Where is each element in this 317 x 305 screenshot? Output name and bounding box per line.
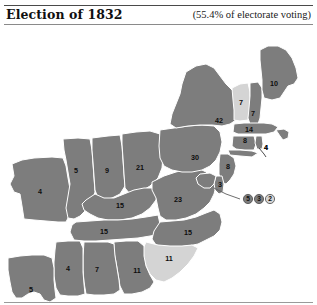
state-LA[interactable] <box>8 255 56 302</box>
state-value-MS: 4 <box>66 264 70 273</box>
map-canvas: 10771448423083219541523151511117454 532 <box>0 26 317 305</box>
callout-value-2: 2 <box>268 195 272 202</box>
footer-rule <box>4 302 313 303</box>
state-RI[interactable] <box>255 136 263 149</box>
state-value-ME: 10 <box>270 79 278 88</box>
header-rule-bottom <box>4 24 313 25</box>
state-value-VA: 23 <box>174 195 182 204</box>
state-MA-cape <box>276 129 289 140</box>
state-value-SC: 11 <box>165 254 173 263</box>
state-value-PA: 30 <box>191 153 199 162</box>
us-election-map-svg: 10771448423083219541523151511117454 532 <box>0 26 317 305</box>
state-value-IN: 9 <box>105 166 109 175</box>
state-value-VT: 7 <box>239 98 243 107</box>
long-island <box>228 150 258 157</box>
state-value-MO: 4 <box>38 187 42 196</box>
state-value-IL: 5 <box>74 166 78 175</box>
callout-circles-group: 532 <box>243 194 274 203</box>
state-ME[interactable] <box>260 46 298 100</box>
election-map-figure: Election of 1832 (55.4% of electorate vo… <box>0 0 317 305</box>
state-NY[interactable] <box>170 64 242 128</box>
state-PA[interactable] <box>159 125 222 172</box>
page-title: Election of 1832 <box>6 7 123 22</box>
state-value-CT: 8 <box>243 136 247 145</box>
callout-value-0: 5 <box>246 195 250 202</box>
state-value-TN: 15 <box>100 227 108 236</box>
state-value-OH: 21 <box>136 163 144 172</box>
state-value-NC: 15 <box>184 228 192 237</box>
state-shapes-group <box>8 46 298 302</box>
state-value-NH: 7 <box>251 109 255 118</box>
state-MA[interactable] <box>233 123 278 134</box>
callout-value-1: 3 <box>257 195 261 202</box>
state-AL[interactable] <box>83 242 120 295</box>
state-value-KY: 15 <box>116 201 124 210</box>
leader-value-RI: 4 <box>264 143 268 152</box>
state-value-NJ: 8 <box>226 162 230 171</box>
state-value-DE: 3 <box>218 180 222 189</box>
state-value-NY: 42 <box>215 116 223 125</box>
state-value-LA: 5 <box>29 285 33 294</box>
state-value-AL: 7 <box>95 265 99 274</box>
header-rule-top <box>4 5 313 6</box>
state-value-MA: 14 <box>245 125 253 134</box>
turnout-note: (55.4% of electorate voting) <box>193 9 311 20</box>
state-value-GA: 11 <box>133 266 141 275</box>
